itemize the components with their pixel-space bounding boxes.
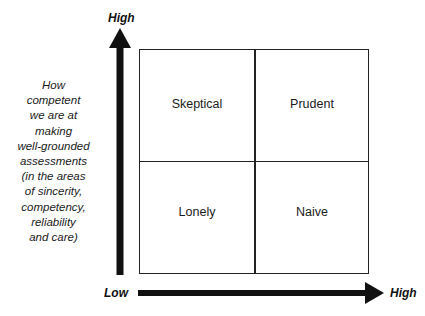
caption-line: we are at: [0, 108, 107, 123]
quadrant-top-right: Prudent: [255, 97, 369, 111]
x-axis-arrow-icon: [137, 280, 387, 306]
horizontal-divider: [140, 161, 368, 163]
quadrant-top-left: Skeptical: [140, 97, 254, 111]
caption-line: well-grounded: [0, 139, 107, 154]
quadrant-bottom-left: Lonely: [140, 205, 254, 219]
caption-line: How: [0, 78, 107, 93]
quadrant-grid: Skeptical Prudent Lonely Naive: [139, 49, 369, 274]
caption-line: competent: [0, 93, 107, 108]
x-axis-low-label: Low: [104, 286, 128, 300]
x-axis-high-label: High: [390, 286, 417, 300]
caption-line: (in the areas: [0, 169, 107, 184]
quadrant-bottom-right: Naive: [255, 205, 369, 219]
caption-line: competency,: [0, 200, 107, 215]
caption-line: reliability: [0, 215, 107, 230]
y-axis-high-label: High: [108, 11, 135, 25]
caption-line: making: [0, 124, 107, 139]
caption-line: assessments: [0, 154, 107, 169]
y-axis-caption: How competent we are at making well-grou…: [0, 78, 107, 245]
caption-line: and care): [0, 230, 107, 245]
y-axis-arrow-icon: [105, 26, 135, 278]
caption-line: of sincerity,: [0, 184, 107, 199]
